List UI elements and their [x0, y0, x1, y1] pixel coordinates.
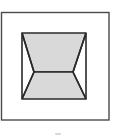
caption — [55, 133, 61, 135]
diagram-figure — [0, 0, 118, 138]
